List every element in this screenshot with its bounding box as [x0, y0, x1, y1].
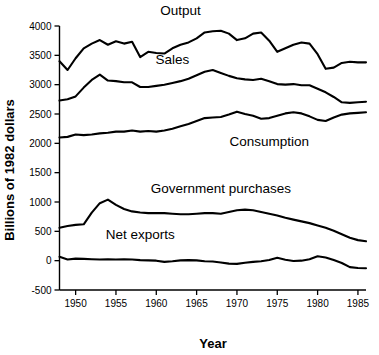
series-line-output [60, 31, 367, 70]
series-line-consumption [60, 112, 367, 138]
y-axis-title: Billions of 1982 dollars [2, 99, 17, 241]
series-label-government-purchases: Government purchases [151, 181, 292, 196]
y-tick-label: 2000 [29, 138, 52, 149]
x-tick-label: 1950 [65, 298, 88, 309]
y-tick-label: 1500 [29, 167, 52, 178]
x-tick-label: 1955 [105, 298, 128, 309]
series-label-net-exports: Net exports [106, 227, 175, 242]
y-tick-label: 3500 [29, 50, 52, 61]
y-tick-label: 3000 [29, 79, 52, 90]
series-label-output: Output [160, 3, 201, 18]
y-tick-label: 1000 [29, 197, 52, 208]
series-label-sales: Sales [156, 52, 190, 67]
series-labels: OutputSalesConsumptionGovernment purchas… [106, 3, 309, 242]
x-tick-label: 1980 [306, 298, 329, 309]
x-tick-label: 1970 [226, 298, 249, 309]
series-line-sales [60, 70, 367, 103]
series-line-net-exports [60, 256, 367, 268]
x-axis-title: Year [199, 336, 226, 351]
x-tick-label: 1985 [347, 298, 370, 309]
y-tick-marks [55, 26, 60, 290]
y-tick-label: 4000 [29, 21, 52, 32]
line-chart: -50005001000150020002500300035004000 195… [0, 0, 379, 355]
y-tick-label: 0 [46, 255, 52, 266]
series-label-consumption: Consumption [229, 134, 309, 149]
y-tick-label: -500 [31, 285, 51, 296]
y-axis-group: -50005001000150020002500300035004000 [29, 21, 59, 296]
x-tick-label: 1960 [145, 298, 168, 309]
x-tick-labels: 19501955196019651970197519801985 [65, 298, 370, 309]
x-tick-marks [76, 290, 358, 295]
x-tick-label: 1965 [185, 298, 208, 309]
y-tick-label: 2500 [29, 109, 52, 120]
y-tick-labels: -50005001000150020002500300035004000 [29, 21, 52, 296]
x-tick-label: 1975 [266, 298, 289, 309]
chart-page: -50005001000150020002500300035004000 195… [0, 0, 379, 355]
x-axis-group: 19501955196019651970197519801985 [60, 290, 370, 309]
y-tick-label: 500 [35, 226, 52, 237]
